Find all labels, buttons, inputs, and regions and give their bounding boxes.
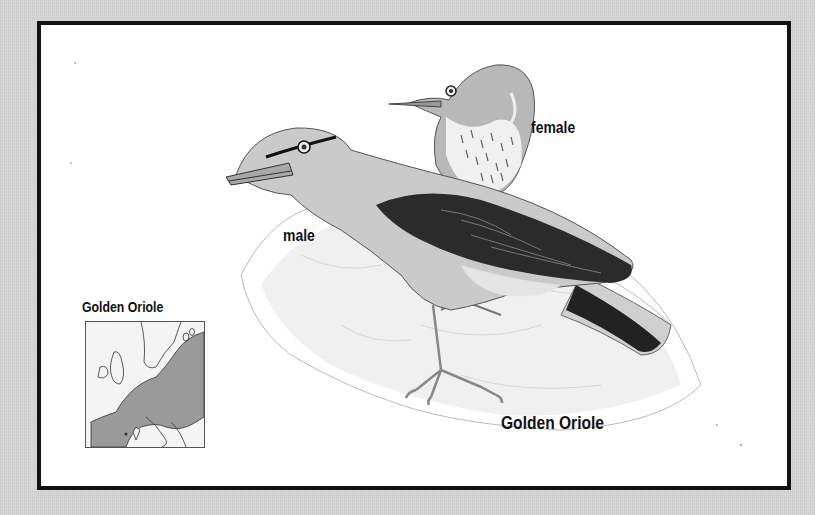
europe-map-icon: [86, 322, 204, 447]
range-map-title: Golden Oriole: [82, 298, 163, 315]
male-label: male: [283, 226, 315, 246]
species-title: Golden Oriole: [501, 412, 604, 434]
female-label: female: [531, 118, 575, 138]
plate-frame: female male Golden Oriole Golden Oriole: [37, 21, 791, 490]
range-map: [85, 321, 205, 448]
